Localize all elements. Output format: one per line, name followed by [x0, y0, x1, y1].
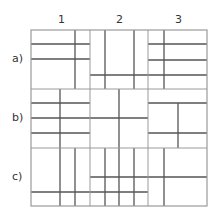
inner-partition-lines [31, 30, 207, 206]
row-label-c: c) [12, 171, 22, 182]
row-label-b: b) [12, 112, 23, 123]
partition-grid-diagram [0, 0, 221, 217]
row-label-a: a) [12, 53, 23, 64]
column-label-3: 3 [175, 14, 182, 25]
column-label-2: 2 [116, 14, 123, 25]
column-label-1: 1 [58, 14, 65, 25]
